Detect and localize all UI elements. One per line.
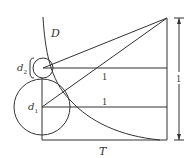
label-curve-d: D (50, 27, 60, 40)
label-d1-sub: 1 (34, 107, 38, 115)
tractrix-diagram: D T d2 d1 1 1 1 (0, 0, 195, 158)
label-height: 1 (176, 73, 181, 84)
label-d2: d2 (17, 62, 27, 76)
label-lower-segment: 1 (102, 96, 107, 107)
label-d2-sub: 2 (23, 68, 27, 76)
ray-to-large-circle (42, 18, 167, 107)
arrow-up-icon (177, 18, 181, 24)
label-d1: d1 (28, 101, 38, 115)
label-base-t: T (99, 145, 108, 158)
label-upper-segment: 1 (102, 71, 107, 82)
arrow-down-icon (177, 134, 181, 140)
ray-to-small-circle (43, 18, 167, 68)
diagram-svg: D T d2 d1 1 1 1 (0, 0, 195, 158)
